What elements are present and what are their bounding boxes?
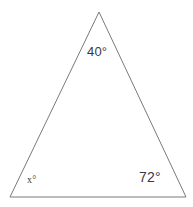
angle-label-bottom-left: x° bbox=[27, 175, 36, 185]
angle-label-apex: 40° bbox=[87, 45, 107, 58]
triangle-diagram: 40° x° 72° bbox=[0, 0, 193, 207]
angle-label-bottom-right: 72° bbox=[139, 170, 161, 184]
